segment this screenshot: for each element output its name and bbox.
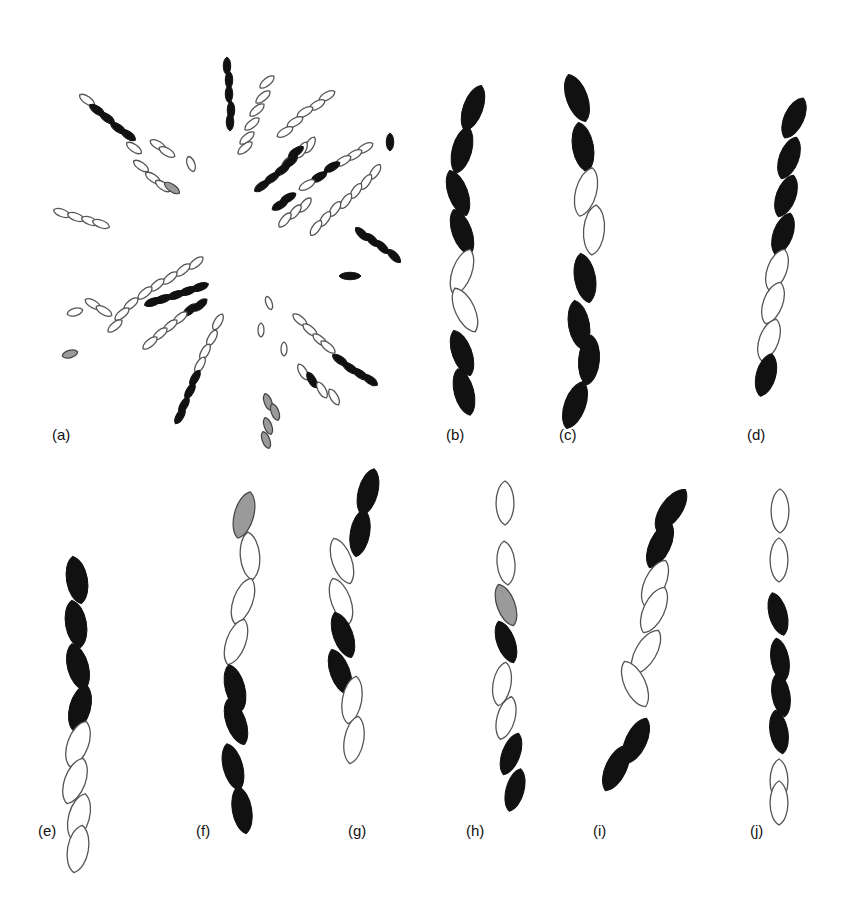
spore-dark [772, 134, 805, 182]
panel-label-d: (d) [747, 426, 765, 443]
panel-c-ascus [557, 71, 607, 432]
figure-canvas [0, 0, 845, 904]
spore-gray [228, 489, 259, 540]
spore-light [248, 101, 267, 118]
spore-dark [445, 206, 480, 258]
panel-a-rosette [52, 57, 403, 450]
spore-light [141, 334, 160, 351]
spore-dark [751, 351, 781, 399]
spore-dark [490, 618, 522, 665]
panel-i-ascus [596, 484, 694, 796]
panel-label-g: (g) [348, 822, 366, 839]
spore-light [281, 342, 287, 356]
spore-light [326, 387, 341, 406]
spore-dark [225, 85, 232, 103]
spore-dark [568, 121, 597, 174]
spore-dark [62, 599, 91, 650]
spore-light [66, 306, 83, 317]
spore-dark [385, 247, 403, 265]
spore-dark [339, 272, 361, 279]
spore-light [495, 540, 517, 585]
spore-dark [557, 378, 594, 432]
spore-dark [446, 124, 477, 175]
panel-e-ascus [57, 555, 96, 875]
spore-dark [217, 741, 248, 792]
spore-light [157, 144, 176, 159]
spore-dark [766, 709, 791, 755]
spore-dark [768, 672, 793, 718]
panel-label-f: (f) [196, 822, 210, 839]
spore-light [258, 323, 264, 337]
panel-label-b: (b) [446, 426, 464, 443]
spore-dark [776, 94, 812, 142]
panel-h-ascus [489, 481, 529, 814]
spore-dark [118, 127, 137, 143]
spore-light [238, 531, 261, 581]
spore-dark [764, 590, 793, 637]
spore-dark [386, 133, 393, 151]
panel-f-ascus [217, 489, 261, 835]
spore-dark [456, 82, 491, 134]
spore-light [319, 338, 338, 355]
panel-d-ascus [751, 94, 812, 399]
panel-b-ascus [441, 82, 491, 418]
spore-light [254, 88, 273, 105]
spore-light [770, 538, 788, 582]
spore-light [771, 489, 789, 533]
spore-dark [226, 113, 233, 131]
panel-label-e: (e) [38, 822, 56, 839]
spore-dark [570, 252, 599, 305]
spore-gray [61, 348, 78, 359]
spore-light [94, 303, 113, 318]
spore-light [314, 380, 329, 399]
spore-light [124, 140, 143, 156]
panel-g-ascus [323, 466, 384, 765]
spore-light [340, 715, 367, 766]
spore-light [258, 73, 277, 90]
spore-dark [559, 71, 596, 125]
panel-label-j: (j) [750, 822, 763, 839]
spore-dark [769, 172, 802, 220]
spore-dark [228, 785, 255, 836]
spore-dark [448, 366, 479, 417]
spore-dark [252, 178, 271, 194]
spore-light [264, 295, 274, 310]
panel-label-a: (a) [52, 426, 70, 443]
spore-dark [270, 197, 289, 212]
spore-dark [219, 696, 254, 748]
spore-light [275, 124, 294, 139]
spore-gray [268, 402, 281, 421]
spore-light [770, 781, 788, 825]
panel-label-h: (h) [466, 822, 484, 839]
spore-light [496, 481, 514, 525]
spore-light [219, 616, 254, 668]
panel-label-i: (i) [593, 822, 606, 839]
spore-gray [490, 581, 522, 628]
spore-light [243, 115, 262, 132]
spore-light [276, 211, 293, 230]
spore-light [297, 177, 316, 192]
spore-light [445, 246, 480, 298]
spore-light [308, 218, 324, 237]
spore-dark [63, 555, 92, 606]
ascus-figure: (a) (b) (c) (d) (e) (f) (g) (h) (i) (j) [0, 0, 845, 904]
spore-light [210, 312, 225, 331]
spore-dark [352, 466, 383, 517]
panel-j-ascus [764, 489, 794, 825]
panel-label-c: (c) [559, 426, 577, 443]
spore-light [91, 217, 110, 230]
spore-dark [62, 641, 95, 693]
spore-dark [346, 508, 373, 559]
spore-light [185, 155, 197, 173]
